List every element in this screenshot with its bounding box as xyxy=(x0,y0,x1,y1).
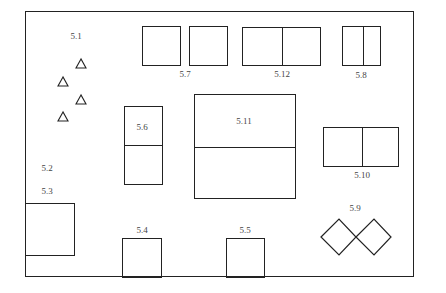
diamond-pair-5-9 xyxy=(0,0,446,293)
